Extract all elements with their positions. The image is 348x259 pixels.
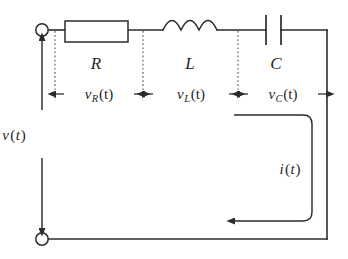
bottom-terminal-node [36,233,48,245]
vr-symbol: v [85,86,92,102]
resistor-symbol [65,21,128,42]
source-label-paren-close: ) [21,127,26,144]
inductor-symbol [163,21,217,31]
vr-subscript: R [91,93,99,104]
capacitor-label: C [270,54,282,73]
current-label-paren-open: ( [285,161,290,178]
capacitor-symbol [266,15,281,45]
source-label-v: v [2,127,9,143]
inductor-coil-arcs [163,21,217,31]
vc-symbol: v [268,86,275,102]
vc-arg: (t) [283,86,297,103]
current-label: i(t) [279,161,300,178]
current-label-i: i [279,161,283,177]
vr-arg: (t) [99,86,113,103]
inductor-label: L [184,54,194,73]
vl-symbol: v [177,86,184,102]
vl-subscript: L [183,93,190,104]
top-terminal-node [36,24,48,36]
source-voltage-label-group: v(t) [2,127,26,144]
vr-label: vR(t) [85,86,113,104]
vl-label: vL(t) [177,86,205,104]
vc-subscript: C [276,93,284,104]
source-label-paren-open: ( [10,127,15,144]
circuit-diagram-figure: R L C v(t) [0,0,348,259]
resistor-body-rect [65,21,128,42]
current-label-paren-close: ) [296,161,301,178]
vl-arg: (t) [191,86,205,103]
vc-label: vC(t) [268,86,297,104]
resistor-label: R [90,54,102,73]
circuit-svg-canvas: R L C v(t) [0,0,348,259]
source-voltage-label: v(t) [2,127,26,144]
